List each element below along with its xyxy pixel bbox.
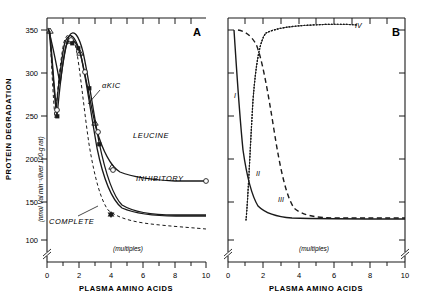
panel-b-y-ticks (228, 30, 234, 240)
panel-a-ytick-100: 100 (25, 236, 38, 245)
panel-a-x-axis-title: PLASMA AMINO ACIDS (79, 284, 173, 293)
panel-b-xtick-10: 10 (401, 271, 409, 280)
panel-b-curve-4 (246, 24, 357, 220)
y-axis-title-outer: PROTEIN DEGRADATION (4, 78, 13, 180)
panel-b: 0 2 4 6 8 10 (multiples) I II III IV B (224, 18, 409, 280)
panel-b-xtick-4: 4 (297, 271, 301, 280)
panel-b-curve-3 (238, 30, 405, 218)
panel-a-xtick-10: 10 (202, 271, 210, 280)
panel-b-xtick-0: 0 (226, 271, 230, 280)
panel-a-leader-complete (78, 206, 98, 216)
panel-a-curve-inhibitory (48, 28, 206, 215)
panel-a-label-leucine: LEUCINE (133, 131, 170, 140)
panel-a-ytick-350: 350 (25, 26, 38, 35)
panel-b-label-4: IV (355, 22, 363, 29)
panel-b-xtick-6: 6 (332, 271, 336, 280)
figure-container: 350 300 250 200 150 100 (0, 0, 424, 293)
panel-b-xtick-2: 2 (261, 271, 265, 280)
panel-a-xtick-2: 2 (77, 271, 81, 280)
panel-b-x-axis-title: PLASMA AMINO ACIDS (269, 284, 363, 293)
panel-a-markers-leucine (55, 38, 209, 184)
panel-a-curve-complete (50, 31, 206, 229)
panel-a-label-inhibitory: INHIBITORY (136, 174, 184, 183)
panel-a-units-label: (multiples) (113, 245, 143, 253)
panel-a-x-ticks (47, 262, 206, 268)
panel-b-label-1: I (234, 92, 236, 99)
panel-a-xtick-8: 8 (173, 271, 177, 280)
panel-b-curve-1 (234, 30, 405, 219)
panel-b-curve-2 (246, 24, 357, 220)
panel-b-letter: B (392, 26, 400, 38)
panel-b-right-ticks (399, 30, 405, 240)
figure-svg: 350 300 250 200 150 100 (0, 0, 424, 293)
panel-a-letter: A (193, 26, 201, 38)
panel-a-ytick-300: 300 (25, 69, 38, 78)
y-axis-title-inner: (nmol Val min⁻¹/liver 100-g rat) (37, 136, 45, 222)
panel-a: 350 300 250 200 150 100 (25, 18, 210, 280)
panel-a-xtick-6: 6 (141, 271, 145, 280)
panel-b-top-ticks (245, 18, 387, 24)
panel-a-curve-akic (50, 33, 206, 216)
panel-b-label-3: III (278, 196, 284, 203)
panel-a-label-complete: COMPLETE (49, 217, 95, 226)
panel-b-units-label: (multiples) (299, 245, 329, 253)
panel-b-label-2: II (256, 170, 260, 177)
panel-a-xtick-0: 0 (45, 271, 49, 280)
panel-a-label-akic: αKIC (102, 81, 121, 90)
panel-a-curve-leucine (49, 30, 206, 181)
panel-a-ytick-250: 250 (25, 112, 38, 121)
panel-a-xtick-4: 4 (109, 271, 113, 280)
panel-a-top-ticks (63, 18, 191, 24)
panel-b-x-ticks (228, 262, 405, 268)
panel-a-markers-inhibitory (108, 211, 115, 218)
panel-b-xtick-8: 8 (368, 271, 372, 280)
